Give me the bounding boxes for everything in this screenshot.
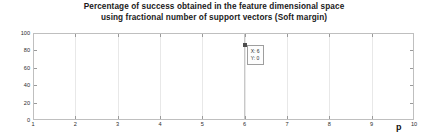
gridline-vertical <box>118 34 119 119</box>
gridline-vertical <box>75 34 76 119</box>
y-tick-mark <box>410 68 413 69</box>
y-tick-mark <box>34 50 37 51</box>
x-tick-mark <box>202 34 203 37</box>
x-tick-mark <box>287 34 288 37</box>
gridline-vertical <box>160 34 161 119</box>
x-axis-label: p <box>396 122 402 132</box>
plot-area[interactable] <box>33 33 414 120</box>
x-tick-label: 5 <box>201 121 204 127</box>
gridline-vertical <box>287 34 288 119</box>
y-tick-label: 100 <box>21 30 30 36</box>
x-tick-label: 4 <box>158 121 161 127</box>
chart-figure: Percentage of success obtained in the fe… <box>0 0 428 136</box>
x-tick-mark <box>75 116 76 119</box>
x-tick-label: 8 <box>328 121 331 127</box>
y-tick-mark <box>410 50 413 51</box>
y-tick-label: 60 <box>24 65 30 71</box>
x-tick-mark <box>160 34 161 37</box>
gridline-vertical <box>329 34 330 119</box>
x-tick-mark <box>329 34 330 37</box>
x-tick-mark <box>372 116 373 119</box>
x-tick-label: 6 <box>243 121 246 127</box>
gridline-vertical <box>202 34 203 119</box>
chart-title-line-2: using fractional number of support vecto… <box>0 12 428 23</box>
x-tick-label: 3 <box>116 121 119 127</box>
x-tick-mark <box>202 116 203 119</box>
x-tick-label: 1 <box>31 121 34 127</box>
chart-title: Percentage of success obtained in the fe… <box>0 1 428 23</box>
x-tick-label: 10 <box>411 121 417 127</box>
datatip-box[interactable]: X: 6 Y: 0 <box>247 45 264 65</box>
y-tick-label: 20 <box>24 100 30 106</box>
chart-title-line-1: Percentage of success obtained in the fe… <box>0 1 428 12</box>
x-tick-mark <box>245 34 246 37</box>
x-tick-label: 2 <box>74 121 77 127</box>
x-tick-label: 9 <box>370 121 373 127</box>
datatip-x-value: X: 6 <box>251 48 260 55</box>
y-tick-label: 40 <box>24 82 30 88</box>
x-tick-mark <box>287 116 288 119</box>
x-tick-mark <box>118 116 119 119</box>
x-tick-label: 7 <box>285 121 288 127</box>
y-tick-mark <box>34 103 37 104</box>
x-tick-mark <box>160 116 161 119</box>
x-tick-mark <box>75 34 76 37</box>
y-tick-label: 80 <box>24 47 30 53</box>
y-tick-mark <box>34 85 37 86</box>
datatip-y-value: Y: 0 <box>251 55 260 62</box>
x-tick-mark <box>329 116 330 119</box>
y-tick-mark <box>410 85 413 86</box>
x-tick-mark <box>118 34 119 37</box>
y-tick-mark <box>34 68 37 69</box>
x-tick-mark <box>245 116 246 119</box>
y-tick-mark <box>410 103 413 104</box>
y-tick-label: 0 <box>27 117 30 123</box>
x-tick-mark <box>372 34 373 37</box>
gridline-vertical <box>372 34 373 119</box>
